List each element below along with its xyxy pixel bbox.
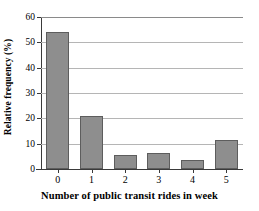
- y-axis-title: Relative frequency (%): [1, 2, 15, 172]
- x-tick-mark-1: [92, 169, 93, 173]
- gridline-60: [41, 17, 243, 18]
- plot-inner: 0102030405060: [41, 17, 243, 169]
- y-tick-mark: [37, 68, 41, 69]
- x-axis-title: Number of public transit rides in week: [0, 190, 259, 201]
- x-tick-mark-3: [159, 169, 160, 173]
- x-axis-line: [36, 169, 243, 170]
- y-tick-label: 0: [30, 164, 35, 174]
- y-tick-label: 10: [26, 139, 36, 149]
- bar-chart-figure: Relative frequency (%) 0102030405060 Num…: [0, 0, 259, 211]
- x-tick-mark-5: [226, 169, 227, 173]
- bar-4: [181, 160, 204, 169]
- x-tick-label-3: 3: [149, 174, 169, 185]
- x-tick-mark-0: [58, 169, 59, 173]
- y-tick-mark: [37, 144, 41, 145]
- y-tick-label: 20: [26, 113, 36, 123]
- y-tick-label: 60: [26, 12, 36, 22]
- y-tick-label: 30: [26, 88, 36, 98]
- gridline-10: [41, 144, 243, 145]
- bar-5: [215, 140, 238, 169]
- y-tick-mark: [37, 17, 41, 18]
- x-tick-label-0: 0: [48, 174, 68, 185]
- y-tick-label: 50: [26, 37, 36, 47]
- gridline-40: [41, 68, 243, 69]
- plot-area: 0102030405060: [41, 17, 243, 169]
- x-tick-label-5: 5: [216, 174, 236, 185]
- bar-1: [80, 116, 103, 169]
- x-tick-mark-4: [193, 169, 194, 173]
- y-tick-mark: [37, 93, 41, 94]
- x-tick-label-4: 4: [183, 174, 203, 185]
- bar-3: [147, 153, 170, 169]
- bar-2: [114, 155, 137, 169]
- x-tick-mark-2: [125, 169, 126, 173]
- gridline-20: [41, 118, 243, 119]
- gridline-50: [41, 42, 243, 43]
- gridline-30: [41, 93, 243, 94]
- x-tick-label-1: 1: [82, 174, 102, 185]
- y-tick-mark: [37, 42, 41, 43]
- y-tick-mark: [37, 118, 41, 119]
- y-tick-label: 40: [26, 63, 36, 73]
- bar-0: [46, 32, 69, 169]
- x-tick-label-2: 2: [115, 174, 135, 185]
